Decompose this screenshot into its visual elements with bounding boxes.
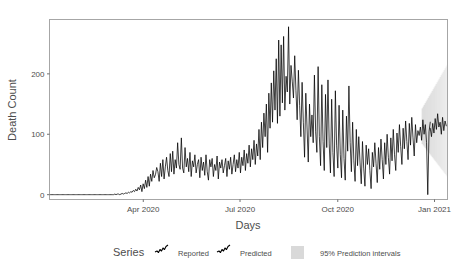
x-tick-label: Oct 2020: [322, 205, 355, 214]
chart-figure: 0100200 Apr 2020Jul 2020Oct 2020Jan 2021…: [0, 0, 472, 274]
y-tick-label: 100: [31, 130, 45, 139]
x-tick-label: Apr 2020: [127, 205, 160, 214]
x-axis-title: Days: [235, 219, 261, 231]
legend-label-predicted[interactable]: Predicted: [240, 249, 272, 258]
legend-label-prediction-intervals[interactable]: 95% Prediction intervals: [320, 249, 401, 258]
death-count-time-series-chart: 0100200 Apr 2020Jul 2020Oct 2020Jan 2021…: [0, 0, 472, 274]
y-tick-label: 200: [31, 70, 45, 79]
prediction-interval-swatch-icon: [291, 246, 304, 259]
y-axis-title: Death Count: [6, 79, 18, 141]
x-tick-label: Jul 2020: [225, 205, 256, 214]
y-tick-label: 0: [40, 191, 45, 200]
x-tick-label: Jan 2021: [418, 205, 451, 214]
legend-label-reported[interactable]: Reported: [178, 249, 209, 258]
chart-background: [0, 0, 472, 274]
legend-title: Series: [113, 246, 145, 258]
